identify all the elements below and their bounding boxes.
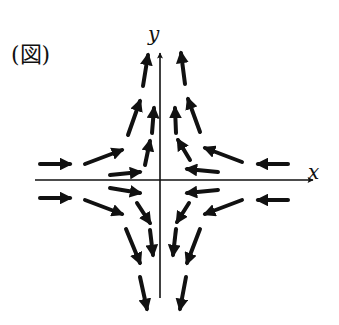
field-arrow-lower-right	[187, 190, 218, 193]
field-arrow-upper-right	[205, 148, 242, 162]
y-axis-label: y	[148, 22, 159, 46]
field-arrow-upper-right	[175, 108, 176, 133]
field-arrow-lower-left	[110, 188, 140, 193]
field-arrow-upper-right	[178, 140, 190, 160]
figure-label: (図)	[11, 36, 50, 68]
field-arrow-lower-right	[187, 229, 200, 263]
field-arrow-lower-left	[126, 229, 140, 263]
field-arrow-lower-left	[137, 203, 150, 223]
field-arrow-upper-right	[181, 53, 185, 84]
field-arrow-upper-left	[152, 108, 154, 133]
field-arrow-lower-right	[180, 277, 186, 309]
field-arrow-lower-left	[140, 277, 147, 309]
field-arrow-upper-left	[145, 141, 150, 165]
field-arrows	[40, 53, 288, 309]
field-arrow-lower-left	[85, 200, 122, 214]
field-arrow-upper-left	[85, 150, 122, 164]
field-arrow-upper-left	[143, 55, 148, 86]
vector-field-canvas	[0, 0, 339, 325]
field-arrow-lower-left	[150, 230, 153, 255]
field-arrow-upper-right	[187, 169, 218, 172]
field-arrow-upper-right	[188, 99, 200, 132]
field-arrow-upper-left	[110, 172, 140, 175]
field-arrow-upper-left	[128, 101, 140, 135]
x-axis-label: x	[308, 160, 319, 184]
field-arrow-lower-right	[205, 200, 242, 214]
field-arrow-lower-right	[177, 203, 189, 222]
field-arrow-lower-right	[173, 229, 176, 255]
